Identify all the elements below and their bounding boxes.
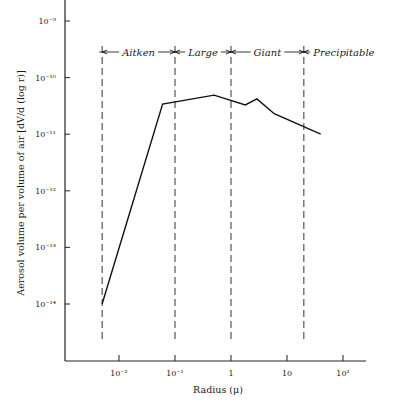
y-tick-label: 10⁻¹⁰	[35, 74, 56, 83]
x-tick-label: 10²	[336, 369, 349, 378]
x-axis-ticks: 10⁻²10⁻¹11010²	[110, 355, 350, 378]
chart: 10⁻⁹10⁻¹⁰10⁻¹¹10⁻¹²10⁻¹³10⁻¹⁴ 10⁻²10⁻¹11…	[0, 0, 394, 405]
y-tick-label: 10⁻¹¹	[35, 130, 56, 139]
y-tick-label: 10⁻¹⁴	[35, 300, 56, 309]
y-axis-title: Aerosol volume per volume of air [dV/d (…	[15, 70, 26, 296]
x-tick-label: 10⁻²	[110, 369, 128, 378]
y-tick-label: 10⁻⁹	[38, 17, 56, 26]
region-boundaries	[99, 46, 307, 342]
x-tick-label: 10⁻¹	[166, 369, 184, 378]
region-label-large: Large	[187, 47, 218, 58]
region-label-aitken: Aitken	[121, 47, 155, 58]
data-curve	[102, 95, 321, 304]
region-label-precipitable: Precipitable	[312, 47, 374, 58]
y-tick-label: 10⁻¹³	[35, 243, 56, 252]
x-tick-label: 1	[228, 369, 233, 378]
region-labels: AitkenLargeGiantPrecipitable	[102, 47, 374, 58]
x-tick-label: 10	[282, 369, 292, 378]
x-axis-title: Radius (μ)	[193, 384, 243, 395]
region-label-giant: Giant	[254, 47, 283, 58]
y-tick-label: 10⁻¹²	[35, 187, 56, 196]
